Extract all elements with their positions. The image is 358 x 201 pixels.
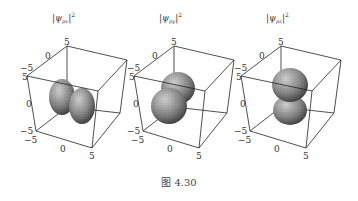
svg-text:0: 0 <box>45 51 51 61</box>
svg-text:5: 5 <box>129 72 135 82</box>
svg-text:5: 5 <box>22 72 28 82</box>
svg-text:0: 0 <box>274 144 280 154</box>
svg-text:5: 5 <box>196 151 202 161</box>
orbital-surface-pz <box>272 68 308 125</box>
svg-text:−5: −5 <box>24 135 38 145</box>
svg-text:5: 5 <box>171 37 177 47</box>
figure-canvas: |ψpx|2 5 0 −5 5 0 <box>0 0 358 201</box>
svg-text:0: 0 <box>152 51 158 61</box>
figure-caption: 图 4.30 <box>0 174 358 189</box>
panel-title-px: |ψpx|2 <box>52 11 75 25</box>
svg-text:0: 0 <box>60 144 66 154</box>
svg-text:0: 0 <box>26 99 32 109</box>
svg-text:5: 5 <box>303 151 309 161</box>
panel-title-pz: |ψpz|2 <box>266 11 289 25</box>
svg-text:5: 5 <box>64 37 70 47</box>
svg-text:0: 0 <box>259 51 265 61</box>
svg-text:0: 0 <box>167 144 173 154</box>
svg-text:5: 5 <box>278 37 284 47</box>
panel-title-py: |ψpy|2 <box>159 11 182 25</box>
panel-pz: |ψpz|2 5 0 −5 5 0 −5 −5 <box>234 11 341 161</box>
svg-text:0: 0 <box>240 99 246 109</box>
panel-px: |ψpx|2 5 0 −5 5 0 <box>20 11 127 161</box>
svg-text:−5: −5 <box>131 135 145 145</box>
svg-text:−5: −5 <box>238 135 252 145</box>
orbital-surface-py <box>151 72 195 124</box>
svg-text:0: 0 <box>133 99 139 109</box>
svg-text:5: 5 <box>89 151 95 161</box>
panel-py: |ψpy|2 5 0 −5 5 0 −5 −5 <box>127 11 234 161</box>
svg-text:5: 5 <box>236 72 242 82</box>
